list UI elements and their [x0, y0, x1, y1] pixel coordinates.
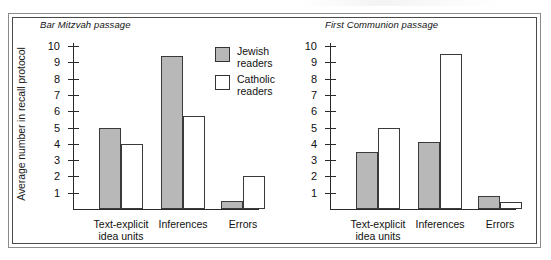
plot-area-right: 1 2 3 4 5 6 7 8 9 10 Text-explicit idea … — [330, 47, 478, 210]
legend-label-catholic-line2: readers — [237, 86, 275, 98]
y-tick-label-5: 5 — [38, 128, 60, 129]
x-category-label-line2: idea units — [332, 230, 424, 242]
x-category-label-errors: Errors — [209, 218, 277, 230]
y-tick-label-4: 4 — [295, 144, 317, 145]
legend-left: Jewish readers Catholic readers — [215, 46, 275, 102]
y-tick-6: 6 — [325, 111, 336, 112]
y-tick-label-2: 2 — [38, 176, 60, 177]
y-tick-5: 5 — [325, 128, 336, 129]
x-axis-line — [73, 209, 259, 210]
bar-jewish-errors — [221, 201, 243, 209]
x-category-label-line2: idea units — [75, 230, 167, 242]
y-tick-label-4: 4 — [38, 144, 60, 145]
y-tick-label-6: 6 — [38, 111, 60, 112]
figure-outer-border: Average number in recall protocol Bar Mi… — [8, 13, 541, 248]
bar-catholic-errors — [500, 202, 522, 209]
legend-label-catholic: Catholic readers — [237, 74, 275, 97]
y-tick-label-7: 7 — [295, 95, 317, 96]
y-tick-label-7: 7 — [38, 95, 60, 96]
y-tick-10: 10 — [325, 46, 336, 47]
y-tick-label-3: 3 — [295, 160, 317, 161]
y-tick-label-1: 1 — [295, 193, 317, 194]
y-tick-label-9: 9 — [295, 62, 317, 63]
y-axis-line — [330, 43, 331, 210]
y-tick-label-10: 10 — [38, 46, 60, 47]
chart-title-left: Bar Mitzvah passage — [40, 19, 131, 30]
y-tick-label-9: 9 — [38, 62, 60, 63]
bar-catholic-text-explicit — [121, 144, 143, 209]
legend-swatch-jewish-icon — [215, 47, 230, 62]
y-tick-1: 1 — [68, 193, 79, 194]
figure-inner-border: Average number in recall protocol Bar Mi… — [12, 17, 537, 244]
y-tick-label-6: 6 — [295, 111, 317, 112]
chart-panel-first-communion: First Communion passage 1 2 3 4 5 6 7 8 … — [285, 18, 542, 243]
y-tick-4: 4 — [325, 144, 336, 145]
y-tick-1: 1 — [325, 193, 336, 194]
chart-title-right: First Communion passage — [325, 19, 438, 30]
y-tick-8: 8 — [325, 79, 336, 80]
y-tick-label-8: 8 — [295, 79, 317, 80]
y-tick-2: 2 — [68, 176, 79, 177]
x-category-label-errors: Errors — [466, 218, 534, 230]
x-axis-line — [330, 209, 516, 210]
legend-label-jewish-line2: readers — [237, 58, 273, 70]
plot-area-left: 1 2 3 4 5 6 7 8 9 10 Text-explicit idea … — [73, 47, 221, 210]
y-tick-label-3: 3 — [38, 160, 60, 161]
y-tick-label-10: 10 — [295, 46, 317, 47]
bar-jewish-errors — [478, 196, 500, 209]
y-axis-title: Average number in recall protocol — [15, 36, 29, 212]
bar-catholic-inferences — [440, 54, 462, 209]
y-axis-line — [73, 43, 74, 210]
y-tick-7: 7 — [325, 95, 336, 96]
y-tick-10: 10 — [68, 46, 79, 47]
x-category-label-line1: Errors — [209, 218, 277, 230]
x-category-label-line1: Errors — [466, 218, 534, 230]
y-tick-3: 3 — [68, 160, 79, 161]
y-tick-4: 4 — [68, 144, 79, 145]
legend-item-catholic: Catholic readers — [215, 74, 275, 97]
y-tick-3: 3 — [325, 160, 336, 161]
legend-label-jewish: Jewish readers — [237, 46, 273, 69]
y-tick-label-1: 1 — [38, 193, 60, 194]
bar-jewish-text-explicit — [99, 128, 121, 210]
y-tick-label-2: 2 — [295, 176, 317, 177]
bar-jewish-text-explicit — [356, 152, 378, 209]
legend-label-catholic-line1: Catholic — [237, 74, 275, 86]
y-tick-5: 5 — [68, 128, 79, 129]
bar-jewish-inferences — [161, 56, 183, 209]
legend-swatch-catholic-icon — [215, 75, 230, 90]
y-tick-7: 7 — [68, 95, 79, 96]
y-tick-8: 8 — [68, 79, 79, 80]
bar-catholic-inferences — [183, 116, 205, 209]
bar-catholic-text-explicit — [378, 128, 400, 210]
bar-jewish-inferences — [418, 142, 440, 209]
y-tick-label-8: 8 — [38, 79, 60, 80]
y-tick-label-5: 5 — [295, 128, 317, 129]
legend-item-jewish: Jewish readers — [215, 46, 275, 69]
legend-label-jewish-line1: Jewish — [237, 46, 273, 58]
y-tick-9: 9 — [68, 62, 79, 63]
chart-panel-bar-mitzvah: Average number in recall protocol Bar Mi… — [13, 18, 285, 243]
y-tick-9: 9 — [325, 62, 336, 63]
y-tick-6: 6 — [68, 111, 79, 112]
scan-artifact — [300, 0, 500, 6]
bar-catholic-errors — [243, 176, 265, 209]
y-tick-2: 2 — [325, 176, 336, 177]
